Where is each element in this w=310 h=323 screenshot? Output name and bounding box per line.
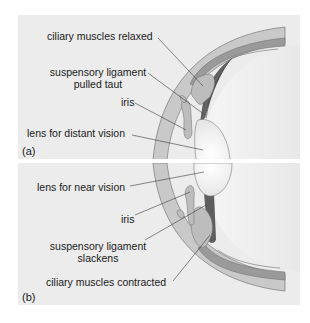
panel-letter-a: (a) [22,145,35,157]
label-ciliary-muscles-relaxed: ciliary muscles relaxed [47,30,153,42]
panel-divider [18,159,300,163]
label-suspensory-ligament-b: suspensory ligament slackens [43,240,153,264]
eye-accommodation-diagram [0,0,310,323]
label-suspensory-ligament-a-line1: suspensory ligament [43,66,153,78]
label-iris-b: iris [121,213,134,225]
label-suspensory-ligament-b-line2: slackens [43,252,153,264]
label-suspensory-ligament-b-line1: suspensory ligament [43,240,153,252]
label-iris-a: iris [121,96,134,108]
label-suspensory-ligament-a-line2: pulled taut [43,78,153,90]
label-suspensory-ligament-a: suspensory ligament pulled taut [43,66,153,90]
label-ciliary-muscles-contracted: ciliary muscles contracted [46,276,166,288]
panel-letter-b: (b) [22,291,35,303]
label-lens-near-vision: lens for near vision [37,181,125,193]
label-lens-distant-vision: lens for distant vision [27,127,125,139]
